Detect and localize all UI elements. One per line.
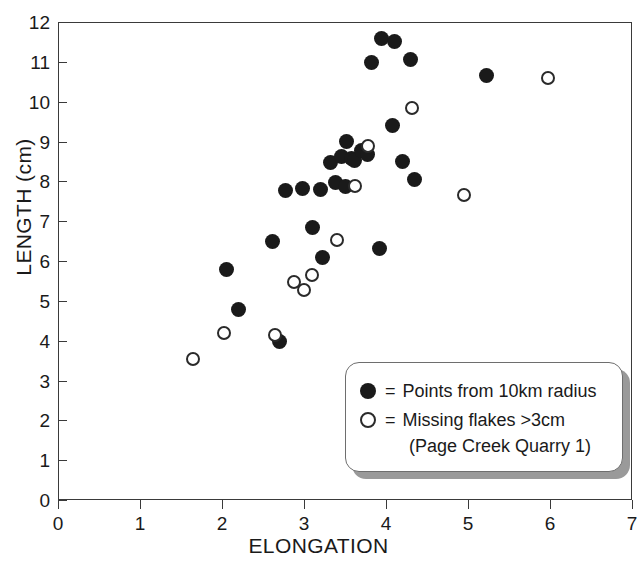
x-tick-label: 7 [617,514,637,533]
legend-label-filled: Points from 10km radius [403,380,597,402]
data-point-filled [364,55,379,70]
legend-box: = Points from 10km radius = Missing flak… [345,362,623,472]
y-axis-title: LENGTH (cm) [12,87,36,327]
data-point-filled [479,68,494,83]
legend-sublabel-open: (Page Creek Quarry 1) [409,435,591,457]
legend-entry-open: = Missing flakes >3cm [360,409,565,431]
data-point-open [297,283,311,297]
filled-circle-icon [360,383,376,399]
x-axis-title: ELONGATION [0,534,637,558]
data-point-filled [305,220,320,235]
data-point-filled [219,262,234,277]
data-point-filled [231,302,246,317]
scatter-chart-figure: 0123456789101112 01234567 LENGTH (cm) EL… [0,0,637,561]
x-tick-label: 3 [289,514,319,533]
open-circle-icon [360,412,376,428]
data-point-open [330,233,344,247]
data-point-filled [295,181,310,196]
data-point-filled [387,34,402,49]
data-point-filled [372,241,387,256]
x-tick-label: 6 [535,514,565,533]
data-point-open [268,328,282,342]
legend-equals-sign-1: = [385,409,396,431]
data-point-open [348,179,362,193]
data-point-filled [265,234,280,249]
data-point-open [217,326,231,340]
x-tick-label: 4 [371,514,401,533]
data-point-filled [395,154,410,169]
legend-equals-sign-0: = [385,380,396,402]
legend-label-open: Missing flakes >3cm [403,409,566,431]
data-point-filled [315,250,330,265]
data-point-open [405,101,419,115]
data-point-filled [407,172,422,187]
x-tick-label: 0 [43,514,73,533]
data-point-filled [313,182,328,197]
data-point-open [186,352,200,366]
x-tick-label: 1 [125,514,155,533]
legend-entry-filled: = Points from 10km radius [360,380,597,402]
x-tick-label: 5 [453,514,483,533]
x-tick-label: 2 [207,514,237,533]
data-point-filled [278,183,293,198]
